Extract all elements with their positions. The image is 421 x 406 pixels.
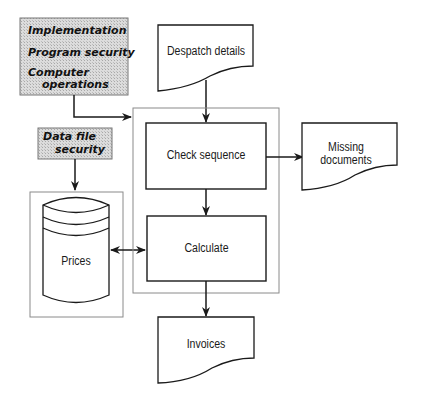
prices-storage-icon: [43, 198, 109, 303]
control-program-security: Program security: [28, 46, 135, 59]
controls-to-process-arrow: [74, 95, 131, 117]
invoices-label: Invoices: [164, 337, 248, 351]
control-security: security: [55, 143, 105, 156]
missing-label: Missing: [307, 140, 384, 154]
control-operations: operations: [42, 78, 109, 91]
calculate-label: Calculate: [154, 241, 259, 255]
control-data-file: Data file: [43, 130, 96, 143]
documents-label: documents: [307, 153, 384, 167]
despatch-details-label: Despatch details: [164, 44, 248, 58]
control-implementation: Implementation: [28, 24, 127, 37]
check-sequence-label: Check sequence: [153, 148, 259, 162]
prices-label: Prices: [47, 254, 105, 268]
